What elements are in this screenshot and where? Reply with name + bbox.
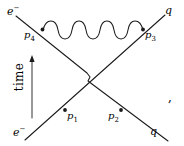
leg-symbol-quark-in: q (150, 125, 157, 138)
momentum-sub-p2: 2 (114, 116, 118, 124)
leg-superscript-electron-initial: − (20, 125, 26, 133)
leg-label-electron-in: e− (7, 5, 19, 17)
trailing-comma: , (168, 90, 172, 104)
momentum-sub-p3: 3 (151, 35, 155, 43)
leg-label-electron-initial: e− (13, 126, 25, 138)
leg-label-quark-out: q (165, 5, 172, 16)
momentum-label-p3: p3 (145, 30, 156, 43)
leg-superscript-electron-in: − (14, 4, 20, 12)
time-axis-arrowhead (29, 55, 34, 62)
feynman-diagram-figure: e− q e− q p4 p3 p1 p2 time , (0, 0, 184, 146)
vertex-dot-p2 (119, 108, 123, 112)
vertex-dot-p4 (41, 28, 45, 32)
momentum-sub-p4: 4 (30, 35, 34, 43)
momentum-label-p4: p4 (24, 30, 35, 43)
momentum-label-p2: p2 (108, 111, 119, 124)
momentum-sub-p1: 1 (73, 116, 77, 124)
leg-label-quark-in: q (150, 126, 157, 137)
momentum-label-p1: p1 (67, 111, 78, 124)
leg-symbol-quark-out: q (165, 4, 172, 17)
fermion-line-quark (25, 15, 165, 140)
time-axis-label: time (12, 50, 26, 104)
photon-propagator-wave (43, 21, 143, 39)
